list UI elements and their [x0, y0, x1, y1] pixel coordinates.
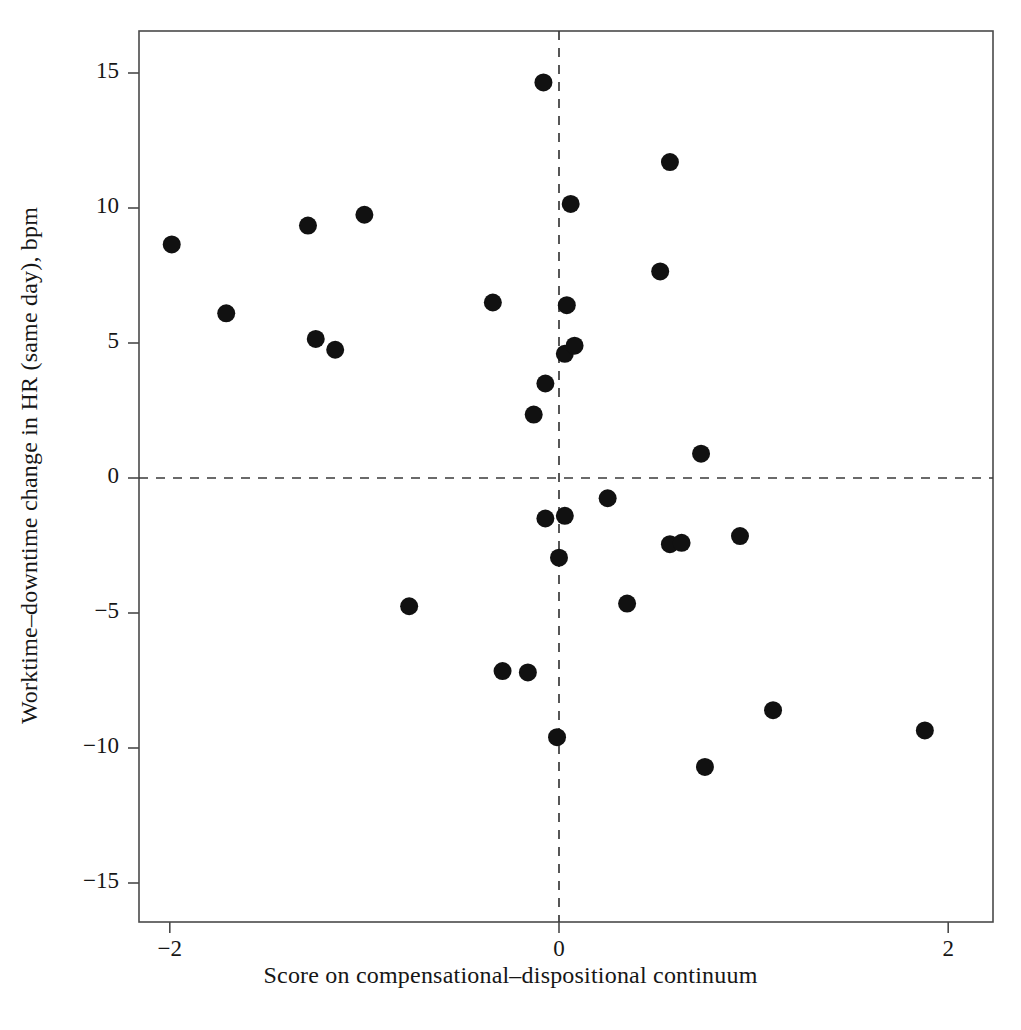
- scatter-point: [618, 595, 636, 613]
- x-axis-tick-label: 2: [918, 936, 978, 962]
- y-axis-label: Worktime–downtime change in HR (same day…: [17, 206, 44, 723]
- plot-frame: [139, 31, 993, 922]
- scatter-point: [548, 728, 566, 746]
- scatter-point: [651, 262, 669, 280]
- x-axis-tick-label: −2: [140, 936, 200, 962]
- scatter-point: [534, 73, 552, 91]
- scatter-point: [731, 527, 749, 545]
- scatter-point: [307, 330, 325, 348]
- scatter-point: [217, 304, 235, 322]
- scatter-point: [400, 597, 418, 615]
- scatter-point: [326, 341, 344, 359]
- scatter-point: [556, 507, 574, 525]
- scatter-point: [536, 510, 554, 528]
- plot-border: [139, 31, 993, 922]
- data-points: [163, 73, 934, 775]
- scatter-point: [696, 758, 714, 776]
- scatter-point: [599, 489, 617, 507]
- scatter-point: [299, 217, 317, 235]
- axis-ticks: [128, 73, 948, 933]
- scatter-point: [566, 337, 584, 355]
- x-axis-tick-label: 0: [529, 936, 589, 962]
- scatter-point: [550, 549, 568, 567]
- scatter-point: [525, 406, 543, 424]
- y-axis-label-container: Worktime–downtime change in HR (same day…: [0, 0, 60, 930]
- scatter-point: [519, 663, 537, 681]
- scatter-point: [163, 235, 181, 253]
- scatter-point: [916, 721, 934, 739]
- scatter-point: [536, 375, 554, 393]
- x-axis-label: Score on compensational–dispositional co…: [0, 962, 1021, 989]
- plot-canvas: [0, 0, 1021, 1030]
- scatter-point: [484, 294, 502, 312]
- reference-lines: [139, 31, 993, 922]
- scatter-point: [355, 206, 373, 224]
- scatter-point: [558, 296, 576, 314]
- scatter-point: [692, 445, 710, 463]
- scatter-point: [494, 662, 512, 680]
- scatter-point: [673, 534, 691, 552]
- scatter-point: [764, 701, 782, 719]
- scatter-point: [661, 153, 679, 171]
- scatter-plot-figure: 151050−5−10−15−202 Worktime–downtime cha…: [0, 0, 1021, 1030]
- scatter-point: [562, 195, 580, 213]
